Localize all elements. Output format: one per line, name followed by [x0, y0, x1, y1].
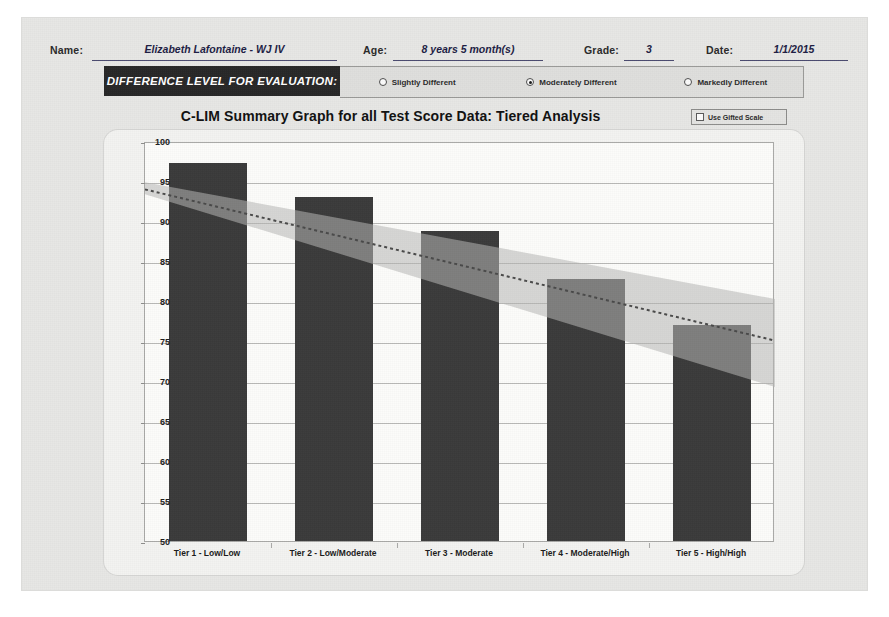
- y-axis-tick-label: 80: [144, 297, 170, 307]
- bar-tier-5: [673, 325, 751, 541]
- age-label: Age:: [363, 44, 387, 56]
- bar-tier-1: [169, 163, 247, 541]
- age-value[interactable]: 8 years 5 month(s): [393, 43, 543, 55]
- y-axis-tick-label: 95: [144, 177, 170, 187]
- scanned-form-sheet: Name: Elizabeth Lafontaine - WJ IV Age: …: [22, 18, 867, 590]
- bar-tier-2: [295, 197, 373, 541]
- y-axis-tick-label: 100: [144, 137, 170, 147]
- grade-label: Grade:: [584, 44, 619, 56]
- x-axis-label-tier-2: Tier 2 - Low/Moderate: [270, 548, 396, 558]
- name-label: Name:: [50, 44, 83, 56]
- radio-option-slightly-different[interactable]: Slightly Different: [340, 78, 494, 87]
- date-value[interactable]: 1/1/2015: [740, 43, 848, 55]
- difference-level-title: DIFFERENCE LEVEL FOR EVALUATION:: [104, 66, 340, 96]
- checkbox-icon-gifted-scale[interactable]: [696, 113, 704, 121]
- radio-icon-markedly-different[interactable]: [684, 78, 692, 86]
- y-axis-tick-label: 65: [144, 417, 170, 427]
- x-axis-label-tier-1: Tier 1 - Low/Low: [144, 548, 270, 558]
- grade-field-underline: [624, 60, 674, 61]
- chart-title-strip: C-LIM Summary Graph for all Test Score D…: [22, 106, 867, 130]
- y-axis-tick-label: 90: [144, 217, 170, 227]
- radio-icon-slightly-different[interactable]: [379, 78, 387, 86]
- date-field-underline: [740, 60, 848, 61]
- difference-level-bar: DIFFERENCE LEVEL FOR EVALUATION: Slightl…: [104, 66, 804, 102]
- name-field-underline: [92, 60, 337, 61]
- y-axis-tick-label: 85: [144, 257, 170, 267]
- y-axis-tick-label: 70: [144, 377, 170, 387]
- y-axis-tick-label: 75: [144, 337, 170, 347]
- use-gifted-scale-label: Use Gifted Scale: [708, 114, 763, 121]
- x-axis-label-tier-4: Tier 4 - Moderate/High: [522, 548, 648, 558]
- grade-value[interactable]: 3: [624, 43, 674, 55]
- y-axis-tick-label: 50: [144, 537, 170, 547]
- use-gifted-scale-checkbox[interactable]: Use Gifted Scale: [691, 109, 787, 125]
- radio-option-markedly-different[interactable]: Markedly Different: [649, 78, 803, 87]
- date-label: Date:: [706, 44, 733, 56]
- chart-panel: 50556065707580859095100 Tier 1 - Low/Low…: [104, 130, 804, 575]
- radio-label-moderately-different: Moderately Different: [539, 78, 616, 87]
- plot-area: [144, 142, 774, 542]
- y-axis-tick-label: 60: [144, 457, 170, 467]
- x-axis-label-tier-3: Tier 3 - Moderate: [396, 548, 522, 558]
- age-field-underline: [393, 60, 543, 61]
- radio-label-slightly-different: Slightly Different: [392, 78, 456, 87]
- bar-tier-3: [421, 231, 499, 541]
- radio-label-markedly-different: Markedly Different: [697, 78, 767, 87]
- radio-option-moderately-different[interactable]: Moderately Different: [494, 78, 648, 87]
- radio-icon-moderately-different[interactable]: [526, 78, 534, 86]
- difference-level-options: Slightly Different Moderately Different …: [340, 66, 804, 98]
- name-value[interactable]: Elizabeth Lafontaine - WJ IV: [92, 43, 337, 55]
- form-header-row: Name: Elizabeth Lafontaine - WJ IV Age: …: [22, 18, 867, 62]
- bar-tier-4: [547, 279, 625, 541]
- x-axis-label-tier-5: Tier 5 - High/High: [648, 548, 774, 558]
- y-axis-tick-label: 55: [144, 497, 170, 507]
